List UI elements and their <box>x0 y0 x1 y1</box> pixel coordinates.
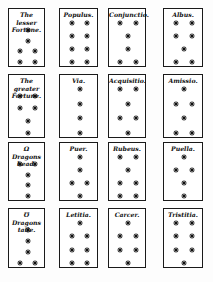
star-icon <box>117 86 123 92</box>
star-icon <box>189 101 195 107</box>
star-icon <box>117 180 123 186</box>
star-icon <box>173 167 179 173</box>
star-icon <box>69 247 75 253</box>
star-icon <box>117 59 123 65</box>
star-icon <box>77 115 83 121</box>
star-icon <box>133 247 139 253</box>
star-icon <box>117 193 123 199</box>
star-icon <box>25 182 31 188</box>
star-icon <box>84 180 90 186</box>
star-icon <box>181 46 187 52</box>
figure-stars <box>60 209 97 267</box>
star-icon <box>25 249 31 255</box>
star-icon <box>125 46 131 52</box>
star-icon <box>181 260 187 266</box>
star-icon <box>173 59 179 65</box>
star-icon <box>189 167 195 173</box>
star-icon <box>117 247 123 253</box>
figure-card: Puer. <box>59 142 98 201</box>
star-icon <box>181 193 187 199</box>
figure-stars <box>109 209 145 267</box>
star-icon <box>125 167 131 173</box>
star-icon <box>25 193 31 199</box>
star-icon <box>181 86 187 92</box>
figure-card: The lesser Fortune. <box>8 8 45 67</box>
figure-stars <box>109 143 145 200</box>
figure-stars <box>164 9 202 66</box>
star-icon <box>181 180 187 186</box>
figure-stars <box>9 75 44 137</box>
figure-stars <box>60 143 97 200</box>
star-icon <box>133 20 139 26</box>
star-icon <box>133 193 139 199</box>
star-icon <box>117 20 123 26</box>
star-icon <box>189 220 195 226</box>
star-icon <box>69 33 75 39</box>
figure-card: Populus. <box>59 8 98 67</box>
figure-card: Acquisitio. <box>108 74 146 138</box>
star-icon <box>17 260 23 266</box>
figure-stars <box>60 75 97 137</box>
figure-stars <box>9 209 44 267</box>
figure-card: Amissio. <box>163 74 203 138</box>
star-icon <box>117 154 123 160</box>
star-icon <box>181 154 187 160</box>
star-icon <box>189 33 195 39</box>
star-icon <box>125 260 131 266</box>
star-icon <box>84 233 90 239</box>
star-icon <box>25 238 31 244</box>
star-icon <box>189 59 195 65</box>
star-icon <box>133 59 139 65</box>
star-icon <box>84 20 90 26</box>
star-icon <box>32 105 38 111</box>
star-icon <box>25 227 31 233</box>
star-icon <box>133 115 139 121</box>
star-icon <box>17 48 23 54</box>
figure-stars <box>164 75 202 137</box>
figure-stars <box>164 143 202 200</box>
figure-card: Puella. <box>163 142 203 201</box>
figure-card: Via. <box>59 74 98 138</box>
star-icon <box>69 20 75 26</box>
star-icon <box>84 247 90 253</box>
star-icon <box>17 93 23 99</box>
star-icon <box>69 59 75 65</box>
star-icon <box>84 59 90 65</box>
star-icon <box>125 33 131 39</box>
star-icon <box>25 38 31 44</box>
star-icon <box>17 59 23 65</box>
star-icon <box>173 220 179 226</box>
star-icon <box>133 233 139 239</box>
star-icon <box>173 20 179 26</box>
figure-card: ℧ Dragons taile. <box>8 208 45 268</box>
star-icon <box>173 247 179 253</box>
star-icon <box>173 33 179 39</box>
star-icon <box>25 118 31 124</box>
star-icon <box>77 86 83 92</box>
star-icon <box>69 180 75 186</box>
figure-card: Tristitia. <box>163 208 203 268</box>
figure-stars <box>60 9 97 66</box>
star-icon <box>77 154 83 160</box>
star-icon <box>189 233 195 239</box>
star-icon <box>189 130 195 136</box>
star-icon <box>25 130 31 136</box>
star-icon <box>133 154 139 160</box>
star-icon <box>77 130 83 136</box>
figure-card: Albus. <box>163 8 203 67</box>
star-icon <box>69 260 75 266</box>
star-icon <box>32 260 38 266</box>
figure-stars <box>164 209 202 267</box>
figure-card: Ω Dragons head. <box>8 142 45 201</box>
star-icon <box>17 105 23 111</box>
star-icon <box>25 27 31 33</box>
star-icon <box>84 46 90 52</box>
star-icon <box>84 260 90 266</box>
star-icon <box>189 20 195 26</box>
star-icon <box>173 101 179 107</box>
geomancy-figures-page: The lesser Fortune.Populus.Conjunctio.Al… <box>0 0 213 282</box>
star-icon <box>32 48 38 54</box>
star-icon <box>25 172 31 178</box>
figure-stars <box>9 9 44 66</box>
star-icon <box>173 130 179 136</box>
